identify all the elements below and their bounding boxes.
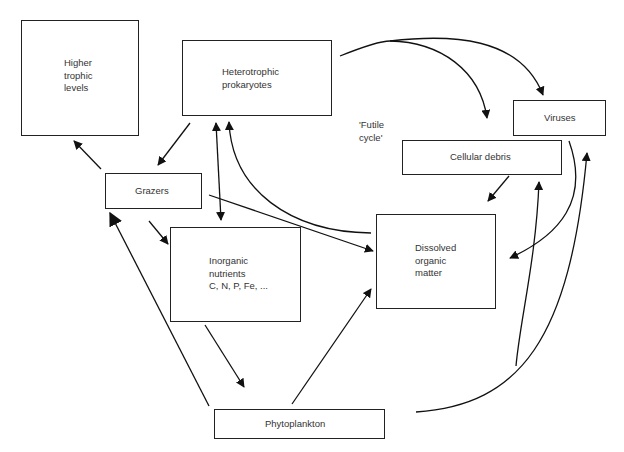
node-heterotrophic-prokaryotes: Heterotrophic prokaryotes xyxy=(182,40,332,116)
node-higher-trophic-levels: Higher trophic levels xyxy=(21,20,139,136)
arrow-heterotrophic-to-viruses xyxy=(390,38,543,95)
node-phytoplankton: Phytoplankton xyxy=(214,409,385,439)
node-label: Grazers xyxy=(135,185,169,198)
futile-cycle-annotation: 'Futile cycle' xyxy=(359,119,384,144)
node-label: Inorganic nutrients C, N, P, Fe, ... xyxy=(209,255,268,293)
arrow-grazers-to-inorganic xyxy=(149,221,168,244)
node-label: Viruses xyxy=(544,112,576,125)
arrow-phytoplankton-to-dom xyxy=(292,289,371,404)
arrow-phytoplankton-to-debris xyxy=(516,182,539,366)
arrow-dom-to-heterotrophic xyxy=(229,122,371,233)
node-viruses: Viruses xyxy=(513,100,606,136)
node-label: Higher trophic levels xyxy=(64,57,93,95)
arrow-inorganic-to-phytoplankton xyxy=(205,325,244,387)
node-label: Heterotrophic prokaryotes xyxy=(222,66,279,91)
node-label: Phytoplankton xyxy=(265,418,325,431)
node-label: Dissolved organic matter xyxy=(415,242,456,280)
arrow-heterotrophic-to-grazers xyxy=(158,123,190,165)
node-dissolved-organic-matter: Dissolved organic matter xyxy=(376,214,496,309)
node-grazers: Grazers xyxy=(105,173,202,209)
node-inorganic-nutrients: Inorganic nutrients C, N, P, Fe, ... xyxy=(170,227,301,322)
arrow-heterotrophic-to-debris xyxy=(340,41,487,118)
arrow-heterotrophic-inorganic xyxy=(216,123,221,220)
node-label: Cellular debris xyxy=(450,151,511,164)
arrow-debris-to-dom xyxy=(488,176,509,201)
node-cellular-debris: Cellular debris xyxy=(402,140,562,175)
arrow-grazers-to-higher-trophic xyxy=(74,141,101,169)
